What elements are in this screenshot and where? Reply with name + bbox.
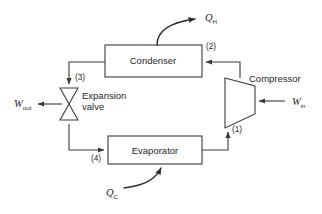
- expansion-valve-label-line2: valve: [82, 101, 104, 112]
- w-in-subscript: in: [301, 102, 306, 109]
- expansion-valve-lower-triangle: [60, 104, 78, 120]
- cycle-diagram-canvas: Condenser Evaporator Compressor Expansio…: [0, 0, 322, 214]
- q-hot-subscript: H: [213, 18, 217, 25]
- heat-rejection-arrow: [157, 19, 195, 45]
- state-point-3: (3): [75, 73, 85, 82]
- flow-expansion-valve-to-evaporator: [69, 124, 104, 150]
- evaporator-label: Evaporator: [132, 145, 178, 156]
- q-cold-subscript: C: [114, 193, 119, 200]
- q-cold-label: QC: [106, 187, 119, 200]
- state-point-2: (2): [206, 42, 216, 51]
- state-point-4: (4): [91, 154, 101, 163]
- expansion-valve-upper-triangle: [60, 88, 78, 104]
- flow-evaporator-to-compressor: [202, 132, 228, 150]
- compressor-label: Compressor: [249, 73, 301, 84]
- state-point-1: (1): [232, 125, 242, 134]
- flow-compressor-to-condenser: [206, 62, 240, 78]
- condenser-label: Condenser: [130, 55, 176, 66]
- q-hot-label: QH: [205, 12, 217, 25]
- expansion-valve-label-line1: Expansion: [82, 90, 126, 101]
- refrigeration-cycle-diagram: Condenser Evaporator Compressor Expansio…: [0, 0, 322, 214]
- compressor-shape: [225, 78, 255, 128]
- heat-absorption-arrow: [124, 168, 161, 188]
- w-in-label: Win: [292, 96, 306, 109]
- w-out-subscript: out: [23, 104, 32, 111]
- w-out-label: Wout: [14, 98, 32, 111]
